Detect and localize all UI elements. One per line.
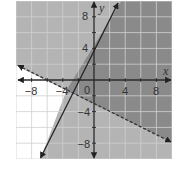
y-tick-label: 4 [82,42,88,54]
x-tick-label: −4 [56,85,69,97]
x-tick-label: −8 [25,85,38,97]
y-tick-label: 8 [82,10,88,22]
x-axis-label: x [162,64,169,78]
y-tick-label: −4 [77,106,90,118]
y-tick-label: −8 [77,138,90,150]
x-tick-label: 8 [153,85,159,97]
inequality-graph: x y −8 −4 0 4 8 8 4 −4 −8 [0,0,181,178]
y-axis-label: y [98,1,105,15]
x-tick-label: 4 [122,85,128,97]
origin-label: 0 [84,84,90,96]
